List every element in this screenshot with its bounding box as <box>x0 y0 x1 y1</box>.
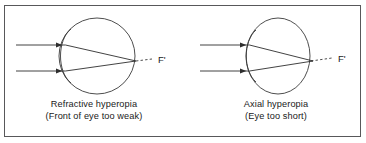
refracted-ray-lower-left <box>66 61 137 71</box>
diagram-refractive-hyperopia: F' <box>16 18 166 94</box>
focal-dashed-line-right <box>311 58 332 61</box>
caption-right-line-1: Axial hyperopia <box>196 99 356 111</box>
eye-globe-right <box>246 18 310 94</box>
focal-point-label-right: F' <box>338 53 346 64</box>
diagram-axial-hyperopia: F' <box>200 18 346 94</box>
refracted-ray-lower-right <box>250 61 314 71</box>
caption-left-line-1: Refractive hyperopia <box>14 99 174 111</box>
focal-dashed-line-left <box>136 59 152 61</box>
refracted-ray-upper-left <box>66 45 137 61</box>
caption-refractive-hyperopia: Refractive hyperopia (Front of eye too w… <box>14 99 174 122</box>
caption-axial-hyperopia: Axial hyperopia (Eye too short) <box>196 99 356 122</box>
hyperopia-figure: F' F' Refractive hyperopia (Front of eye… <box>0 0 366 143</box>
caption-left-line-2: (Front of eye too weak) <box>14 111 174 123</box>
focal-point-label-left: F' <box>158 54 166 65</box>
cornea-arc-right <box>246 30 256 82</box>
cornea-arc-left <box>61 29 72 83</box>
caption-right-line-2: (Eye too short) <box>196 111 356 123</box>
refracted-ray-upper-right <box>250 45 314 61</box>
